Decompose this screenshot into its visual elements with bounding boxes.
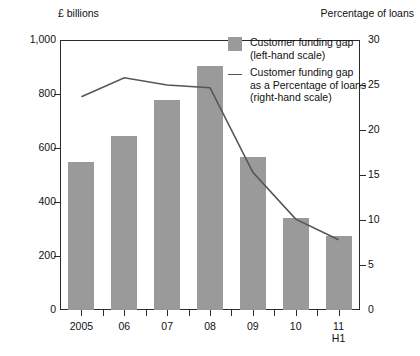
right-tick-mark <box>359 265 366 266</box>
legend-label-line: as a Percentage of loans <box>250 79 366 92</box>
left-tick-label: 1,000 <box>30 34 56 45</box>
legend-label-line: (right-hand scale) <box>250 91 366 104</box>
right-tick-label: 20 <box>368 124 380 135</box>
x-tick-mark <box>317 310 318 316</box>
x-axis-label-primary: 11 <box>311 320 367 332</box>
x-tick-mark-center <box>210 310 211 316</box>
legend-line-swatch-icon <box>228 67 242 81</box>
x-tick-mark <box>274 310 275 316</box>
right-axis-title: Percentage of loans <box>321 7 414 19</box>
x-tick-mark <box>189 310 190 316</box>
legend-label-line: Customer funding gap <box>250 66 366 79</box>
bar <box>240 157 266 310</box>
bar <box>326 236 352 310</box>
x-tick-mark-center <box>253 310 254 316</box>
legend-item: Customer funding gapas a Percentage of l… <box>228 66 388 104</box>
bar <box>68 162 94 310</box>
x-tick-mark-center <box>167 310 168 316</box>
right-tick-mark <box>359 220 366 221</box>
chart-legend: Customer funding gap(left-hand scale)Cus… <box>228 36 388 109</box>
right-tick-mark <box>359 130 366 131</box>
legend-bar-swatch-icon <box>228 37 242 51</box>
legend-label: Customer funding gap(left-hand scale) <box>250 36 353 61</box>
x-tick-mark-center <box>339 310 340 316</box>
x-axis-label: 11H1 <box>311 320 367 344</box>
x-tick-mark <box>146 310 147 316</box>
legend-item: Customer funding gap(left-hand scale) <box>228 36 388 61</box>
x-tick-mark-center <box>296 310 297 316</box>
bar <box>283 218 309 310</box>
right-tick-label: 10 <box>368 214 380 225</box>
right-tick-mark <box>359 175 366 176</box>
bar <box>111 136 137 310</box>
right-tick-label: 5 <box>368 259 374 270</box>
chart-container: £ billions Percentage of loans 020040060… <box>0 0 420 356</box>
x-axis-label-secondary: H1 <box>311 332 367 344</box>
x-tick-mark-center <box>81 310 82 316</box>
bar <box>154 100 180 310</box>
right-tick-label: 0 <box>368 304 374 315</box>
legend-label-line: (left-hand scale) <box>250 49 353 62</box>
left-tick-label: 0 <box>50 304 56 315</box>
bar <box>197 66 223 310</box>
x-tick-mark <box>103 310 104 316</box>
legend-label-line: Customer funding gap <box>250 36 353 49</box>
right-tick-label: 15 <box>368 169 380 180</box>
legend-label: Customer funding gapas a Percentage of l… <box>250 66 366 104</box>
left-axis-title: £ billions <box>58 7 99 19</box>
x-tick-mark <box>231 310 232 316</box>
x-tick-mark-center <box>124 310 125 316</box>
